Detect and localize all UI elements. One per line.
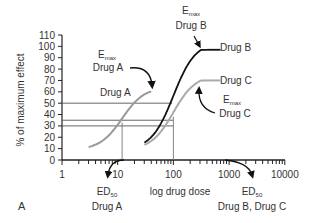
svg-text:80: 80	[44, 64, 56, 75]
svg-text:Drug A: Drug A	[93, 62, 124, 73]
svg-text:10000: 10000	[271, 169, 299, 180]
svg-text:70: 70	[44, 75, 56, 86]
svg-text:Emax: Emax	[223, 94, 241, 106]
svg-text:100: 100	[165, 169, 182, 180]
svg-text:10: 10	[112, 169, 124, 180]
svg-text:Emax: Emax	[182, 5, 200, 17]
svg-text:90: 90	[44, 52, 56, 63]
svg-text:110: 110	[39, 30, 55, 41]
y-axis-label: % of maximum effect	[15, 53, 26, 146]
x-ticks: 110100100010000	[59, 160, 299, 180]
svg-text:Emax: Emax	[98, 49, 116, 61]
svg-text:30: 30	[44, 120, 56, 131]
svg-text:50: 50	[44, 98, 56, 109]
label-drug-a: Drug A	[100, 87, 131, 98]
svg-text:1000: 1000	[218, 169, 241, 180]
panel-label: A	[18, 200, 26, 212]
annotation-ed50-drug-a: ED50 Drug A	[92, 160, 124, 212]
annotation-ed50-drug-bc: ED50 Drug B, Drug C	[218, 160, 286, 212]
svg-text:100: 100	[38, 41, 55, 52]
svg-text:ED50: ED50	[242, 186, 263, 198]
svg-text:Drug B: Drug B	[175, 20, 206, 31]
annotation-emax-drug-c: Emax Drug C	[199, 90, 251, 119]
annotation-emax-drug-b: Emax Drug B	[175, 5, 206, 45]
svg-text:Drug C: Drug C	[219, 108, 251, 119]
annotation-emax-drug-a: Emax Drug A	[93, 49, 152, 85]
svg-text:Drug A: Drug A	[92, 201, 123, 212]
svg-text:40: 40	[44, 109, 56, 120]
svg-text:10: 10	[44, 143, 56, 154]
label-drug-c: Drug C	[220, 75, 252, 86]
dose-response-chart: % of maximum effect 01020304050607080901…	[0, 0, 315, 223]
svg-text:Drug B, Drug C: Drug B, Drug C	[218, 201, 286, 212]
svg-text:1: 1	[59, 169, 65, 180]
svg-text:60: 60	[44, 86, 56, 97]
label-drug-b: Drug B	[220, 42, 251, 53]
y-ticks: 0102030405060708090100110	[38, 30, 62, 166]
svg-text:ED50: ED50	[97, 186, 118, 198]
x-axis-label: log drug dose	[150, 186, 211, 197]
svg-text:20: 20	[44, 132, 56, 143]
svg-text:0: 0	[49, 155, 55, 166]
